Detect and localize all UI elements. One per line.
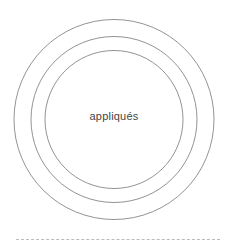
dashed-divider: [16, 239, 220, 240]
center-label: appliqués: [0, 110, 228, 122]
concentric-circles-diagram: [0, 0, 232, 249]
